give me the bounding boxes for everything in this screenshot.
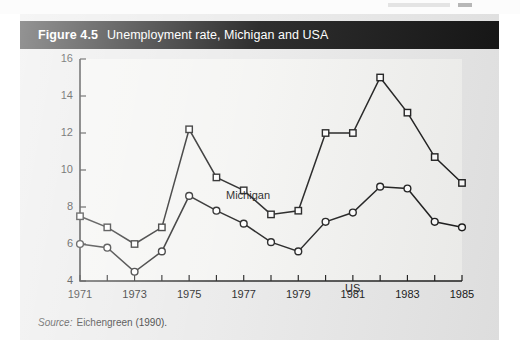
data-point-marker	[158, 248, 165, 255]
data-point-marker	[431, 218, 438, 225]
data-point-marker	[377, 74, 383, 80]
x-tick-label: 1975	[177, 288, 201, 300]
data-point-marker	[131, 268, 138, 275]
x-tick-label: 1979	[286, 288, 310, 300]
data-point-marker	[404, 109, 410, 115]
x-tick-label: 1971	[68, 288, 92, 300]
data-point-marker	[322, 130, 328, 136]
unemployment-line-chart: 46810121416 1971197319751977197919811983…	[20, 49, 499, 311]
data-point-marker	[268, 239, 275, 246]
figure-number: Figure 4.5	[38, 28, 98, 42]
data-point-marker	[459, 224, 466, 231]
data-point-marker	[186, 126, 192, 132]
x-tick-label: 1977	[231, 288, 255, 300]
data-point-marker	[213, 207, 220, 214]
artifact-smudge	[388, 3, 450, 7]
figure-container: Figure 4.5 Unemployment rate, Michigan a…	[20, 14, 499, 340]
page-header-artifact	[0, 0, 520, 14]
x-tick-label: 1985	[450, 288, 474, 300]
data-point-marker	[131, 241, 137, 247]
data-point-marker	[268, 211, 274, 217]
data-point-marker	[404, 185, 411, 192]
data-point-marker	[459, 180, 465, 186]
data-point-marker	[77, 241, 84, 248]
data-point-marker	[322, 218, 329, 225]
figure-title: Unemployment rate, Michigan and USA	[107, 28, 328, 42]
source-label: Source:	[38, 317, 72, 328]
data-point-marker	[432, 154, 438, 160]
y-tick-label: 6	[67, 237, 73, 249]
data-point-marker	[295, 248, 302, 255]
data-point-marker	[295, 208, 301, 214]
figure-title-bar: Figure 4.5 Unemployment rate, Michigan a…	[20, 21, 499, 49]
series-label-us: US	[345, 282, 360, 294]
y-tick-label: 12	[61, 126, 73, 138]
data-point-marker	[349, 209, 356, 216]
data-point-marker	[186, 193, 193, 200]
x-tick-label: 1983	[395, 288, 419, 300]
data-point-marker	[159, 224, 165, 230]
source-note: Source:Eichengreen (1990).	[38, 317, 167, 328]
data-point-marker	[77, 213, 83, 219]
y-tick-label: 8	[67, 200, 73, 212]
y-tick-label: 10	[61, 163, 73, 175]
data-point-marker	[350, 130, 356, 136]
y-tick-label: 16	[61, 52, 73, 64]
y-tick-label: 4	[67, 274, 73, 286]
artifact-page-number	[458, 3, 472, 7]
x-tick-label: 1973	[122, 288, 146, 300]
data-point-marker	[104, 224, 110, 230]
data-point-marker	[104, 244, 111, 251]
chart-plot-area: 46810121416 1971197319751977197919811983…	[20, 49, 499, 311]
series-label-michigan: Michigan	[226, 189, 270, 201]
y-tick-label: 14	[61, 89, 73, 101]
data-point-marker	[377, 183, 384, 190]
data-point-marker	[213, 174, 219, 180]
source-text: Eichengreen (1990).	[76, 317, 167, 328]
data-point-marker	[240, 220, 247, 227]
